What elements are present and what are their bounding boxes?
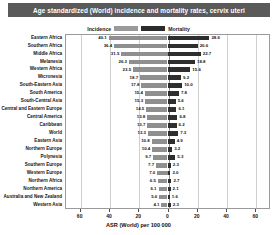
bar-mortality xyxy=(168,75,181,80)
bar-row: Western Asia4.12.3 xyxy=(0,201,277,209)
category-label: South-Eastern Asia xyxy=(0,83,62,88)
category-label: Western Asia xyxy=(0,203,62,208)
bar-row: South America15.47.8 xyxy=(0,90,277,98)
legend-label-incidence: Incidence xyxy=(87,26,111,32)
value-label-incidence: 13.3 xyxy=(134,131,146,135)
bar-mortality xyxy=(168,163,171,168)
bar-incidence xyxy=(129,60,168,65)
category-label: Eastern Africa xyxy=(0,36,62,41)
category-label: Northern Africa xyxy=(0,179,62,184)
bar-mortality xyxy=(168,91,179,96)
bar-row: Southern Africa36.420.6 xyxy=(0,42,277,50)
value-label-mortality: 2.0 xyxy=(172,171,178,175)
bar-mortality xyxy=(168,99,176,104)
bar-row: Caribbean13.76.2 xyxy=(0,122,277,130)
bar-incidence xyxy=(148,131,167,136)
bar-row: World13.37.3 xyxy=(0,129,277,137)
bar-mortality xyxy=(168,147,173,152)
bar-rows: Eastern Africa40.128.6Southern Africa36.… xyxy=(0,34,277,209)
bar-mortality xyxy=(168,36,210,41)
bar-incidence xyxy=(153,155,167,160)
value-label-incidence: 4.1 xyxy=(147,203,159,207)
value-label-incidence: 6.1 xyxy=(145,187,157,191)
category-label: South-Central Asia xyxy=(0,99,62,104)
category-label: Polynesia xyxy=(0,155,62,160)
category-label: Northern America xyxy=(0,187,62,192)
value-label-mortality: 2.7 xyxy=(173,179,179,183)
bar-incidence xyxy=(152,139,168,144)
value-label-incidence: 23.5 xyxy=(119,68,131,72)
value-label-incidence: 18.7 xyxy=(126,76,138,80)
chart-legend: Incidence Mortality xyxy=(0,24,277,33)
value-label-mortality: 20.6 xyxy=(200,44,209,48)
category-label: Caribbean xyxy=(0,123,62,128)
value-label-incidence: 5.6 xyxy=(145,195,157,199)
x-axis: 6040200204060 xyxy=(65,209,270,223)
value-label-mortality: 2.3 xyxy=(173,163,179,167)
value-label-incidence: 14.5 xyxy=(132,107,144,111)
bar-row: Micronesia18.79.2 xyxy=(0,74,277,82)
bar-row: Central and Eastern Europe14.56.1 xyxy=(0,106,277,114)
category-label: Eastern Asia xyxy=(0,139,62,144)
bar-row: Western Europe7.02.0 xyxy=(0,169,277,177)
x-axis-label: ASR (World) per 100 000 xyxy=(0,222,277,228)
bar-row: South-Eastern Asia17.810.0 xyxy=(0,82,277,90)
bar-incidence xyxy=(156,163,167,168)
value-label-mortality: 7.8 xyxy=(181,91,187,95)
value-label-mortality: 9.2 xyxy=(183,76,189,80)
bar-row: Southern Europe7.72.3 xyxy=(0,161,277,169)
category-label: World xyxy=(0,131,62,136)
value-label-incidence: 15.4 xyxy=(131,91,143,95)
bar-mortality xyxy=(168,203,171,208)
value-label-mortality: 22.7 xyxy=(203,52,212,56)
bar-incidence xyxy=(140,75,167,80)
bar-incidence xyxy=(147,123,167,128)
bar-incidence xyxy=(146,107,167,112)
value-label-mortality: 6.2 xyxy=(179,123,185,127)
chart-figure: Age standardized (World) incidence and m… xyxy=(0,0,277,235)
value-label-mortality: 1.6 xyxy=(172,195,178,199)
category-label: Melanesia xyxy=(0,60,62,65)
value-label-mortality: 6.8 xyxy=(179,115,185,119)
value-label-mortality: 10.0 xyxy=(184,83,193,87)
bar-row: South-Central Asia15.35.6 xyxy=(0,98,277,106)
bar-mortality xyxy=(168,123,177,128)
chart-title: Age standardized (World) incidence and m… xyxy=(33,7,245,14)
category-label: Central America xyxy=(0,115,62,120)
value-label-incidence: 26.3 xyxy=(115,60,127,64)
bar-row: Central America13.86.8 xyxy=(0,114,277,122)
bar-mortality xyxy=(168,107,177,112)
bar-mortality xyxy=(168,67,191,72)
value-label-incidence: 13.7 xyxy=(133,123,145,127)
bar-row: Northern America6.12.1 xyxy=(0,185,277,193)
value-label-incidence: 17.8 xyxy=(127,83,139,87)
bar-mortality xyxy=(168,195,170,200)
bar-incidence xyxy=(152,147,167,152)
value-label-incidence: 10.4 xyxy=(138,147,150,151)
bar-row: Melanesia26.318.8 xyxy=(0,58,277,66)
x-tick-label: 40 xyxy=(223,213,229,219)
bar-mortality xyxy=(168,115,178,120)
bar-row: Australia and New Zealand5.61.6 xyxy=(0,193,277,201)
bar-mortality xyxy=(168,171,171,176)
value-label-mortality: 3.2 xyxy=(174,147,180,151)
bar-row: Polynesia9.75.3 xyxy=(0,153,277,161)
x-tick-label: 0 xyxy=(166,213,169,219)
value-label-mortality: 4.9 xyxy=(177,139,183,143)
bar-incidence xyxy=(159,195,167,200)
category-label: Southern Europe xyxy=(0,163,62,168)
bar-incidence xyxy=(141,83,167,88)
legend-swatch-incidence xyxy=(114,26,138,32)
category-label: South America xyxy=(0,91,62,96)
value-label-mortality: 2.3 xyxy=(173,203,179,207)
bar-incidence xyxy=(158,179,168,184)
bar-row: Northern Africa6.52.7 xyxy=(0,177,277,185)
value-label-incidence: 31.5 xyxy=(107,52,119,56)
value-label-mortality: 7.3 xyxy=(180,131,186,135)
x-tick-label: 60 xyxy=(253,213,259,219)
x-tick-label: 40 xyxy=(106,213,112,219)
value-label-incidence: 7.0 xyxy=(143,171,155,175)
chart-title-bar: Age standardized (World) incidence and m… xyxy=(8,3,270,17)
bar-mortality xyxy=(168,60,196,65)
bar-incidence xyxy=(157,171,167,176)
